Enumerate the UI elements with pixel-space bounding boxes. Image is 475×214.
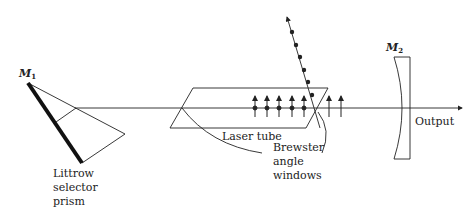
mirror-m2-label: M2 — [385, 41, 403, 55]
output-label: Output — [415, 115, 455, 128]
brewster-label-3: windows — [273, 169, 322, 182]
polarization-arrows — [253, 96, 341, 117]
brewster-label-2: angle — [273, 155, 304, 168]
prism-label-2: selector — [53, 181, 98, 194]
littrow-prism — [28, 83, 125, 163]
prism-label-3: prism — [53, 195, 85, 208]
brewster-label-1: Brewster — [273, 141, 325, 154]
laser-cavity-diagram: M1 Littrow selector prism Laser tube Bre… — [0, 0, 475, 214]
mirror-m1-label: M1 — [18, 67, 36, 81]
prism-label-1: Littrow — [53, 167, 95, 180]
mirror-m1 — [28, 83, 82, 163]
